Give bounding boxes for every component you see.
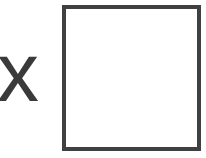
empty-checkbox[interactable]: [62, 5, 201, 151]
x-symbol: x: [0, 30, 39, 114]
